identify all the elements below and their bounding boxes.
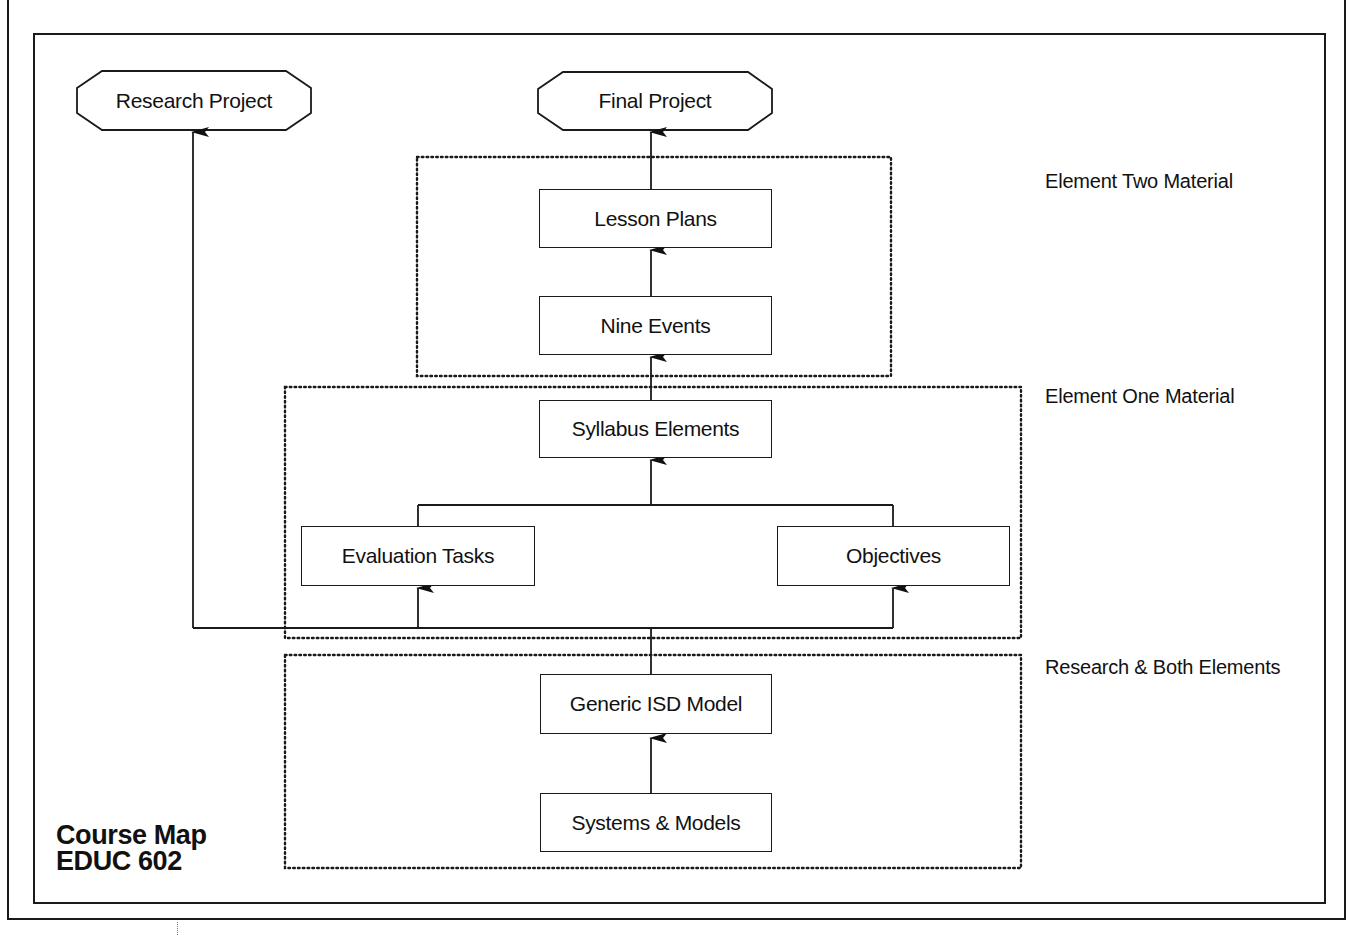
box-generic-isd-model-label: Generic ISD Model [570,692,742,716]
group-label-research-both: Research & Both Elements [1045,656,1280,679]
terminal-research-project: Research Project [77,71,311,130]
box-nine-events-label: Nine Events [601,314,711,338]
group-label-element-two: Element Two Material [1045,170,1233,193]
diagram-title-line1: Course Map [56,822,207,848]
box-objectives: Objectives [777,526,1010,586]
group-label-element-one: Element One Material [1045,385,1234,408]
box-nine-events: Nine Events [539,296,772,355]
box-syllabus-elements-label: Syllabus Elements [572,417,740,441]
box-systems-models-label: Systems & Models [571,811,740,835]
box-evaluation-tasks: Evaluation Tasks [301,526,535,586]
terminal-final-project: Final Project [538,72,772,130]
box-lesson-plans-label: Lesson Plans [594,207,716,231]
diagram-title-line2: EDUC 602 [56,848,207,874]
diagram-title: Course Map EDUC 602 [56,822,207,874]
box-objectives-label: Objectives [846,544,941,568]
box-generic-isd-model: Generic ISD Model [540,674,772,734]
terminal-final-project-label: Final Project [599,89,712,113]
box-evaluation-tasks-label: Evaluation Tasks [342,544,494,568]
box-systems-models: Systems & Models [540,793,772,852]
terminal-research-project-label: Research Project [116,89,272,113]
box-lesson-plans: Lesson Plans [539,189,772,248]
box-syllabus-elements: Syllabus Elements [539,400,772,458]
